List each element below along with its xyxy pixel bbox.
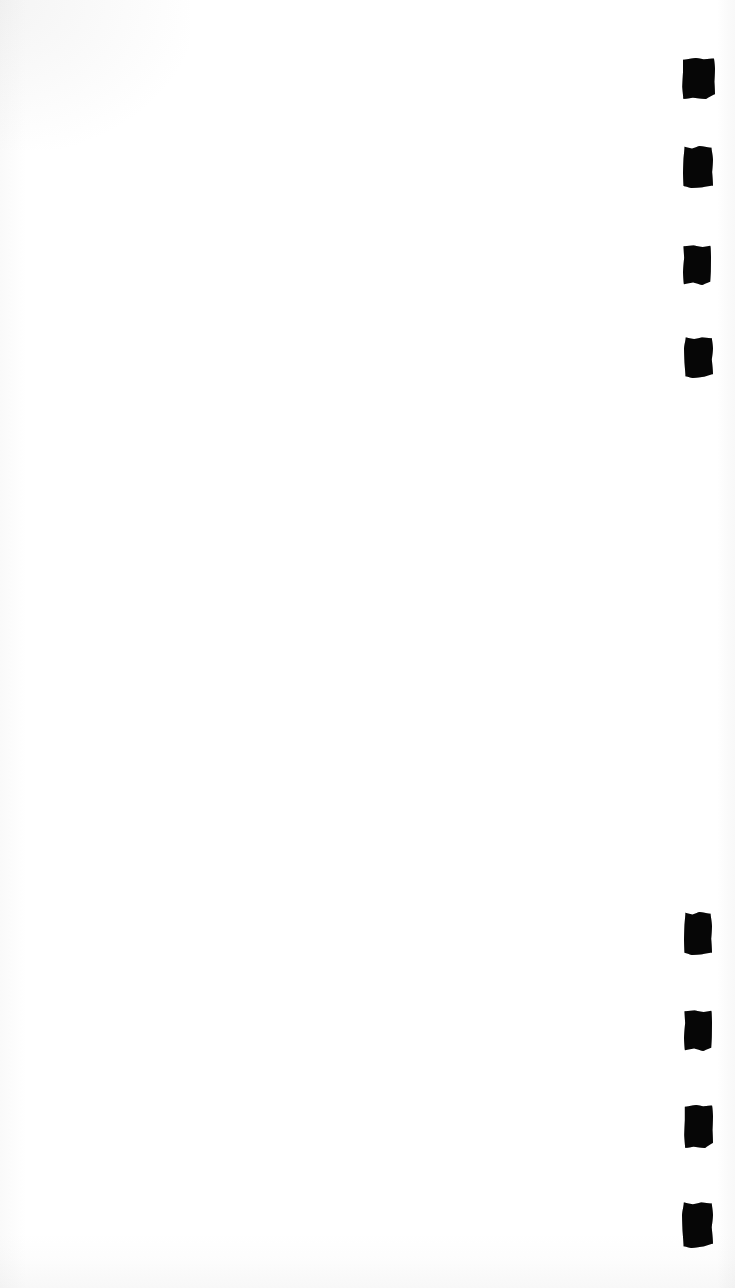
scanned-page [0, 0, 735, 1288]
registration-mark [684, 912, 712, 955]
paper-surface [0, 0, 735, 1288]
registration-mark [682, 1202, 713, 1248]
registration-mark [683, 245, 711, 285]
registration-mark [682, 58, 715, 99]
registration-mark [684, 337, 713, 378]
registration-mark [684, 1105, 713, 1148]
registration-mark [683, 146, 713, 188]
registration-mark [684, 1010, 712, 1051]
